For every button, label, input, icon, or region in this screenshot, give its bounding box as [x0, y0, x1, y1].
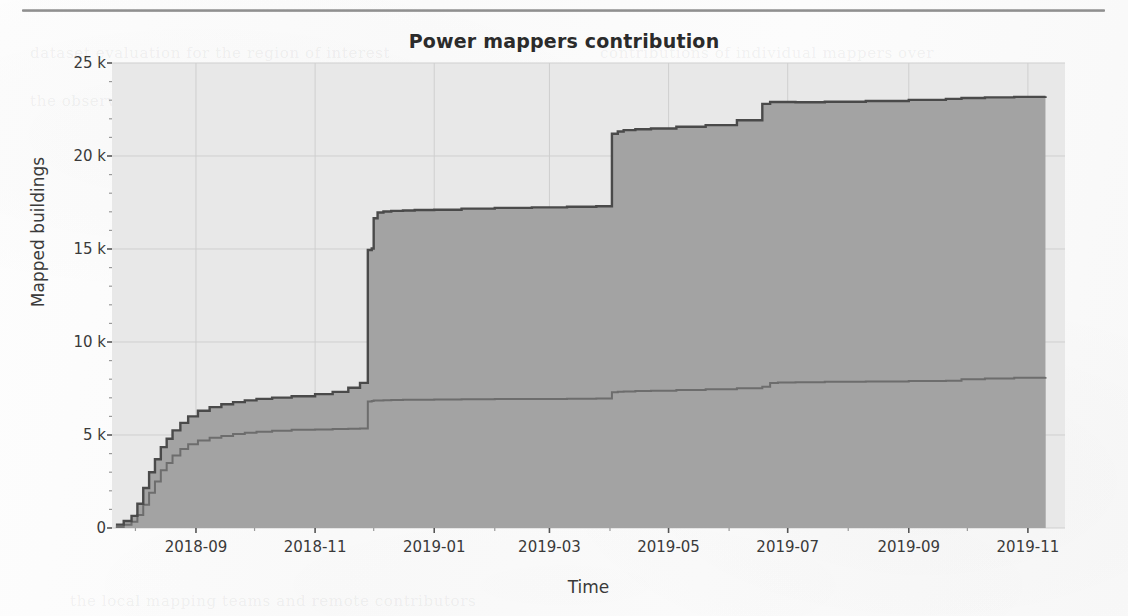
x-tick-label: 2019-01	[369, 538, 499, 556]
y-tick-label: 5 k	[16, 426, 106, 444]
x-tick-label: 2019-11	[963, 538, 1093, 556]
x-tick-label: 2019-05	[604, 538, 734, 556]
y-tick-label: 10 k	[16, 333, 106, 351]
y-tick-label: 0	[16, 519, 106, 537]
x-tick-label: 2018-11	[250, 538, 380, 556]
x-tick-label: 2019-03	[484, 538, 614, 556]
y-tick-label: 25 k	[16, 54, 106, 72]
x-axis-label: Time	[112, 577, 1065, 597]
x-tick-label: 2018-09	[131, 538, 261, 556]
y-tick-label: 15 k	[16, 240, 106, 258]
x-tick-label: 2019-07	[723, 538, 853, 556]
plot-canvas	[0, 0, 1128, 616]
y-tick-label: 20 k	[16, 147, 106, 165]
x-tick-label: 2019-09	[844, 538, 974, 556]
chart-figure: Power mappers contribution Mapped buildi…	[0, 0, 1128, 616]
